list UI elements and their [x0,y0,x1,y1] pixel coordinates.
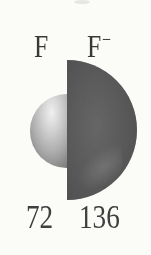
atom-sphere [30,94,67,168]
radius-comparison-illustration [0,0,151,255]
ion-hemisphere [67,60,137,200]
figure-canvas: F F− [0,0,151,255]
atom-radius-value: 72 [26,200,53,234]
ion-radius-value: 136 [79,200,120,234]
